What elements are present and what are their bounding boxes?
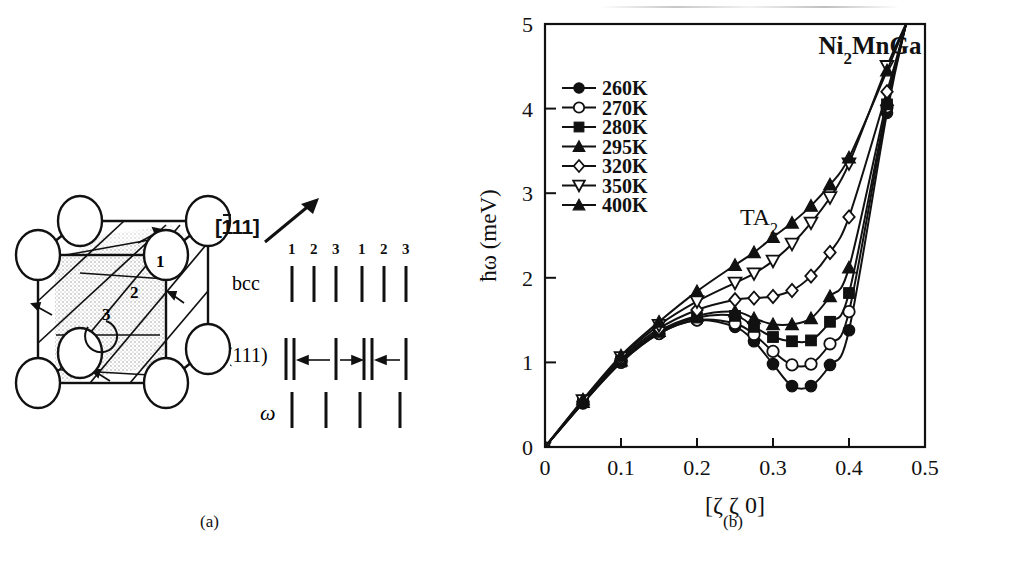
row-label-omega: ω	[260, 400, 276, 425]
y-tick-label: 5	[522, 12, 533, 37]
data-point-marker	[786, 380, 797, 391]
omega-plane-bars	[292, 392, 400, 428]
data-point-marker	[691, 285, 704, 297]
data-point-marker	[574, 83, 584, 93]
data-point-marker	[767, 358, 778, 369]
row-label-modulated: L2⁄3(111)	[230, 343, 268, 373]
y-tick-label: 2	[522, 266, 533, 291]
bcc-unit-cell-drawing: 1 2 3	[10, 185, 240, 415]
figure-root: 1 2 3 [111] 1 2 3 1 2 3 bcc L2⁄	[0, 0, 1031, 575]
data-point-marker	[768, 332, 779, 343]
data-point-marker	[574, 122, 584, 132]
svg-text:1: 1	[288, 241, 296, 257]
data-point-marker	[805, 358, 816, 369]
svg-text:2: 2	[310, 241, 318, 257]
data-point-marker	[729, 259, 742, 271]
data-point-marker	[767, 256, 780, 268]
svg-text:3: 3	[332, 241, 340, 257]
panel-a-crystal-diagram: 1 2 3 [111] 1 2 3 1 2 3 bcc L2⁄	[0, 0, 470, 575]
legend-label-400K: 400K	[602, 194, 648, 216]
data-point-marker	[844, 288, 855, 299]
dispersion-plot: 00.10.20.30.40.5012345[ζ ζ 0]ħω (meV)Ni2…	[470, 0, 1031, 575]
x-tick-label: 0.2	[683, 455, 711, 480]
data-point-marker	[574, 160, 584, 172]
svg-text:1: 1	[358, 241, 366, 257]
row-label-bcc: bcc	[232, 272, 260, 294]
y-axis-label: ħω (meV)	[476, 189, 501, 281]
crystal-label-1: 1	[156, 252, 165, 271]
data-point-marker	[691, 296, 704, 308]
data-point-marker	[806, 335, 817, 346]
data-point-marker	[787, 336, 798, 347]
data-point-marker	[729, 293, 740, 306]
direction-label-111: [111]	[215, 215, 259, 239]
series-line	[545, 24, 906, 447]
data-point-marker	[748, 312, 761, 324]
panel-b-caption: (b)	[723, 512, 743, 532]
data-point-marker	[767, 290, 778, 303]
data-point-marker	[824, 338, 835, 349]
data-point-marker	[843, 261, 856, 273]
y-tick-label: 1	[522, 350, 533, 375]
direction-arrow-icon	[263, 198, 323, 246]
data-point-marker	[824, 359, 835, 370]
x-tick-label: 0.4	[835, 455, 863, 480]
data-point-marker	[824, 192, 837, 204]
data-point-marker	[805, 380, 816, 391]
overline-index: 1	[222, 215, 232, 238]
sample-label: Ni2MnGa	[819, 32, 922, 68]
svg-text:2: 2	[380, 241, 388, 257]
data-point-marker	[574, 102, 584, 112]
panel-a-caption: (a)	[200, 512, 219, 532]
y-tick-label: 0	[522, 435, 533, 460]
crystal-label-2: 2	[130, 283, 139, 302]
data-point-marker	[786, 359, 797, 370]
x-tick-label: 0.1	[607, 455, 635, 480]
data-point-marker	[767, 346, 778, 357]
stack-index-labels: 1 2 3 1 2 3	[288, 241, 410, 257]
x-tick-label: 0	[540, 455, 551, 480]
data-point-marker	[825, 317, 836, 328]
data-point-marker	[748, 268, 761, 280]
data-point-marker	[843, 210, 854, 223]
x-tick-label: 0.5	[911, 455, 939, 480]
data-point-marker	[729, 278, 742, 290]
legend: 260K270K280K295K320K350K400K	[562, 77, 648, 216]
y-tick-label: 4	[522, 97, 533, 122]
data-point-marker	[786, 284, 797, 297]
panel-b-dispersion-chart: 00.10.20.30.40.5012345[ζ ζ 0]ħω (meV)Ni2…	[470, 0, 1031, 575]
bcc-plane-bars	[292, 266, 406, 302]
data-point-marker	[748, 292, 759, 305]
data-point-marker	[824, 290, 837, 302]
y-tick-label: 3	[522, 181, 533, 206]
modulated-shift-arrows	[298, 356, 400, 364]
x-tick-label: 0.3	[759, 455, 787, 480]
svg-text:3: 3	[402, 241, 410, 257]
stacking-sequence-diagram: 1 2 3 1 2 3 bcc L2⁄3(111) ω	[230, 240, 430, 430]
